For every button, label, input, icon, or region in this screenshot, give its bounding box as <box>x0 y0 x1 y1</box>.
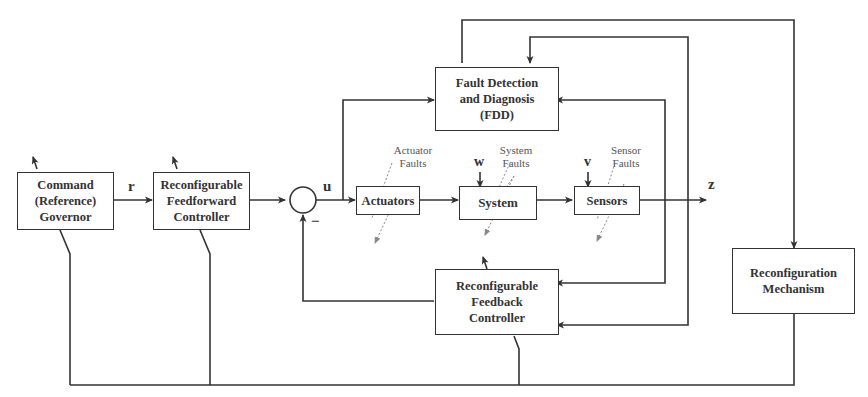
fdd-block: Fault Detectionand Diagnosis(FDD) <box>435 67 559 131</box>
system-block: System <box>459 186 537 220</box>
diagram-connections <box>0 0 868 397</box>
reconfiguration-mechanism-block: ReconfigurationMechanism <box>732 248 855 314</box>
sensor-faults-label: SensorFaults <box>604 144 648 170</box>
signal-w-label: w <box>474 154 484 170</box>
signal-r-label: r <box>128 178 135 195</box>
actuator-faults-label: ActuatorFaults <box>388 144 438 170</box>
sensors-block: Sensors <box>574 186 640 215</box>
feedforward-controller-block: ReconfigurableFeedforwardController <box>153 172 250 230</box>
signal-z-label: z <box>708 176 715 193</box>
actuators-block: Actuators <box>356 186 420 215</box>
signal-u-label: u <box>323 178 331 195</box>
command-governor-block: Command(Reference)Governor <box>17 172 114 230</box>
summing-junction <box>290 187 316 213</box>
system-faults-label: SystemFaults <box>494 144 538 170</box>
minus-sign: − <box>311 213 320 230</box>
feedback-controller-block: ReconfigurableFeedbackController <box>435 269 559 335</box>
signal-v-label: v <box>584 154 591 170</box>
